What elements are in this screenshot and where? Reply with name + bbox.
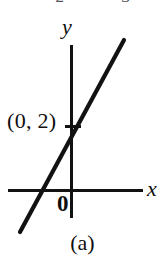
y-axis [70,45,73,218]
clipped-text-row: 2 3 [0,0,165,9]
figure-graph-a: 2 3 y x 0 (0, 2) (a) [0,0,165,258]
clipped-glyph-right: 3 [122,0,131,5]
x-axis-label: x [147,178,157,200]
x-axis [8,189,143,192]
clipped-glyph-left: 2 [56,0,65,5]
origin-label: 0 [57,192,69,215]
y-axis-label: y [62,16,72,38]
figure-caption: (a) [0,230,165,256]
y-intercept-tick-mark [65,125,81,128]
y-intercept-label: (0, 2) [7,110,56,132]
